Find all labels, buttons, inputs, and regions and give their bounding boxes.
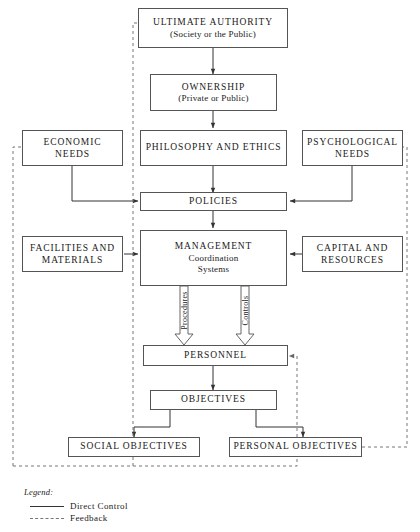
node-facilities-and-materials[interactable]: FACILITIES AND MATERIALS (22, 236, 123, 272)
node-policies[interactable]: POLICIES (140, 192, 287, 211)
legend-entry-direct-control: Direct Control (30, 500, 204, 512)
node-management-line1: MANAGEMENT (175, 241, 253, 253)
node-philosophy-and-ethics-line1: PHILOSOPHY AND ETHICS (146, 142, 282, 154)
node-ultimate-authority-line1: ULTIMATE AUTHORITY (153, 16, 273, 28)
node-personal-objectives[interactable]: PERSONAL OBJECTIVES (229, 437, 362, 457)
node-management[interactable]: MANAGEMENT Coordination Systems (140, 230, 287, 286)
node-economic-needs-line2: NEEDS (55, 148, 90, 160)
organization-flowchart: ULTIMATE AUTHORITY (Society or the Publi… (0, 0, 420, 532)
node-social-objectives-line1: SOCIAL OBJECTIVES (80, 441, 188, 453)
node-psychological-needs[interactable]: PSYCHOLOGICAL NEEDS (302, 130, 403, 166)
legend-solid-line-swatch (30, 506, 64, 507)
node-personnel[interactable]: PERSONNEL (143, 345, 288, 366)
node-capital-and-resources-line2: RESOURCES (321, 254, 384, 266)
flow-label-procedures: Procedures (180, 285, 189, 337)
node-objectives[interactable]: OBJECTIVES (150, 390, 277, 410)
node-economic-needs[interactable]: ECONOMIC NEEDS (22, 130, 123, 166)
node-objectives-line1: OBJECTIVES (181, 394, 246, 406)
legend-title: Legend: (24, 487, 204, 497)
node-ownership-line1: OWNERSHIP (182, 81, 246, 93)
node-social-objectives[interactable]: SOCIAL OBJECTIVES (68, 437, 200, 457)
legend-dashed-line-swatch (30, 518, 64, 519)
node-psychological-needs-line2: NEEDS (335, 148, 370, 160)
node-facilities-and-materials-line1: FACILITIES AND (30, 242, 115, 254)
node-economic-needs-line1: ECONOMIC (44, 136, 102, 148)
legend: Legend: Direct Control Feedback (24, 487, 204, 524)
node-personal-objectives-line1: PERSONAL OBJECTIVES (233, 441, 357, 453)
node-ultimate-authority[interactable]: ULTIMATE AUTHORITY (Society or the Publi… (138, 8, 288, 48)
node-capital-and-resources[interactable]: CAPITAL AND RESOURCES (302, 236, 403, 272)
node-philosophy-and-ethics[interactable]: PHILOSOPHY AND ETHICS (140, 130, 287, 166)
flow-label-controls: Controls (241, 285, 250, 337)
node-ownership-line2: (Private or Public) (178, 93, 248, 104)
node-ownership[interactable]: OWNERSHIP (Private or Public) (150, 74, 277, 111)
legend-entry-direct-control-label: Direct Control (70, 501, 128, 511)
node-personnel-line1: PERSONNEL (184, 350, 247, 362)
node-management-line3: Systems (198, 264, 229, 275)
node-policies-line1: POLICIES (189, 196, 238, 208)
legend-entry-feedback: Feedback (30, 512, 204, 524)
node-capital-and-resources-line1: CAPITAL AND (317, 242, 388, 254)
node-psychological-needs-line1: PSYCHOLOGICAL (307, 136, 398, 148)
legend-entry-feedback-label: Feedback (70, 513, 108, 523)
node-facilities-and-materials-line2: MATERIALS (42, 254, 103, 266)
node-management-line2: Coordination (189, 253, 239, 264)
node-ultimate-authority-line2: (Society or the Public) (170, 29, 256, 40)
